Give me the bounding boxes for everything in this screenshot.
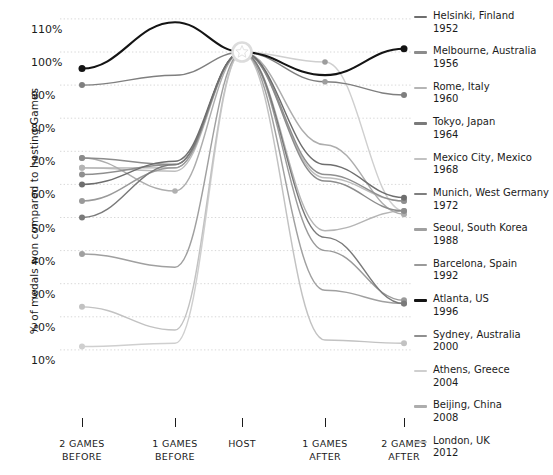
x-axis-tick-label: 1 GAMESAFTER: [302, 438, 347, 463]
legend-city-name: Helsinki, Finland: [433, 10, 514, 21]
data-point[interactable]: [79, 215, 85, 221]
data-point[interactable]: [401, 45, 408, 52]
legend-item[interactable]: Sydney, Australia2000: [414, 329, 521, 354]
legend-color-swatch: [414, 122, 427, 124]
x-axis-tick-label: 2 GAMESBEFORE: [59, 438, 104, 463]
series-line[interactable]: [82, 52, 404, 343]
legend-city-name: Sydney, Australia: [433, 329, 521, 340]
x-axis-tick-label: 1 GAMESBEFORE: [152, 438, 197, 463]
legend-city-name: Melbourne, Australia: [433, 45, 536, 56]
legend-item[interactable]: Melbourne, Australia1956: [414, 45, 536, 70]
series-line[interactable]: [82, 52, 404, 231]
x-axis-label-line2: BEFORE: [152, 451, 197, 464]
y-axis-tick-label: 70%: [31, 155, 55, 168]
legend-item[interactable]: Munich, West Germany1972: [414, 187, 549, 212]
data-point[interactable]: [79, 171, 85, 177]
y-axis-tick-label: 60%: [31, 188, 55, 201]
legend-color-swatch: [414, 228, 427, 230]
y-axis-tick-label: 80%: [31, 122, 55, 135]
legend-color-swatch: [414, 16, 427, 18]
legend-item[interactable]: Tokyo, Japan1964: [414, 116, 495, 141]
legend-item[interactable]: Athens, Greece2004: [414, 364, 510, 389]
legend-label: Munich, West Germany1972: [433, 187, 549, 212]
series-line[interactable]: [82, 52, 404, 211]
legend-color-swatch: [414, 193, 427, 195]
legend-color-swatch: [414, 441, 427, 443]
legend-color-swatch: [414, 158, 427, 160]
legend-item[interactable]: Helsinki, Finland1952: [414, 10, 514, 35]
legend-color-swatch: [414, 370, 427, 372]
y-axis-tick-label: 90%: [31, 89, 55, 102]
data-point[interactable]: [79, 344, 85, 350]
data-point[interactable]: [172, 188, 178, 194]
legend-year: 2008: [433, 412, 502, 425]
legend-label: Atlanta, US1996: [433, 293, 489, 318]
legend-label: Rome, Italy1960: [433, 81, 490, 106]
data-point[interactable]: [79, 304, 85, 310]
legend-city-name: Munich, West Germany: [433, 187, 549, 198]
x-axis-label-line2: AFTER: [302, 451, 347, 464]
legend-year: 1952: [433, 23, 514, 36]
legend-city-name: Barcelona, Spain: [433, 258, 517, 269]
x-axis-tick-label: HOST: [228, 438, 256, 451]
data-point[interactable]: [79, 165, 85, 171]
data-point[interactable]: [79, 251, 85, 257]
chart-legend: Helsinki, Finland1952Melbourne, Australi…: [414, 4, 553, 472]
data-point[interactable]: [322, 79, 328, 85]
legend-city-name: Seoul, South Korea: [433, 222, 528, 233]
y-axis-tick-label: 30%: [31, 288, 55, 301]
y-axis-tick-label: 50%: [31, 222, 55, 235]
series-line[interactable]: [82, 52, 404, 201]
series-line[interactable]: [82, 52, 404, 201]
legend-year: 1960: [433, 93, 490, 106]
data-point[interactable]: [79, 181, 85, 187]
legend-color-swatch: [414, 405, 427, 407]
data-point[interactable]: [79, 155, 85, 161]
legend-year: 1992: [433, 270, 517, 283]
legend-color-swatch: [414, 264, 427, 266]
legend-item[interactable]: Atlanta, US1996: [414, 293, 489, 318]
y-axis-tick-label: 110%: [31, 23, 62, 36]
data-point[interactable]: [79, 198, 85, 204]
data-point[interactable]: [322, 59, 328, 65]
legend-year: 1972: [433, 200, 549, 213]
legend-color-swatch: [414, 299, 427, 302]
y-axis-tick-label: 40%: [31, 255, 55, 268]
x-axis-tick-mark: [325, 418, 326, 427]
x-axis-label-line2: BEFORE: [59, 451, 104, 464]
legend-item[interactable]: London, UK2012: [414, 435, 490, 460]
legend-item[interactable]: Rome, Italy1960: [414, 81, 490, 106]
series-line[interactable]: [82, 52, 404, 347]
data-point[interactable]: [401, 340, 407, 346]
data-point[interactable]: [79, 82, 85, 88]
legend-item[interactable]: Barcelona, Spain1992: [414, 258, 517, 283]
legend-label: London, UK2012: [433, 435, 490, 460]
x-axis-tick-mark: [82, 418, 83, 427]
legend-label: Tokyo, Japan1964: [433, 116, 495, 141]
data-point[interactable]: [79, 65, 86, 72]
x-axis-label-line1: HOST: [228, 438, 256, 451]
legend-label: Mexico City, Mexico1968: [433, 152, 532, 177]
x-axis-label-line1: 1 GAMES: [302, 438, 347, 451]
data-point[interactable]: [401, 92, 407, 98]
legend-color-swatch: [414, 51, 427, 53]
legend-color-swatch: [414, 87, 427, 89]
legend-city-name: London, UK: [433, 435, 490, 446]
legend-label: Melbourne, Australia1956: [433, 45, 536, 70]
legend-year: 2012: [433, 447, 490, 460]
legend-city-name: Tokyo, Japan: [433, 116, 495, 127]
x-axis-tick-mark: [175, 418, 176, 427]
legend-year: 1964: [433, 129, 495, 142]
legend-year: 1988: [433, 235, 528, 248]
legend-label: Beijing, China2008: [433, 399, 502, 424]
legend-city-name: Atlanta, US: [433, 293, 489, 304]
x-axis-tick-mark: [404, 418, 405, 427]
data-point[interactable]: [401, 195, 407, 201]
legend-city-name: Beijing, China: [433, 399, 502, 410]
legend-label: Barcelona, Spain1992: [433, 258, 517, 283]
data-point[interactable]: [401, 208, 407, 214]
data-point[interactable]: [401, 301, 407, 307]
legend-item[interactable]: Beijing, China2008: [414, 399, 502, 424]
legend-item[interactable]: Seoul, South Korea1988: [414, 222, 528, 247]
legend-item[interactable]: Mexico City, Mexico1968: [414, 152, 532, 177]
